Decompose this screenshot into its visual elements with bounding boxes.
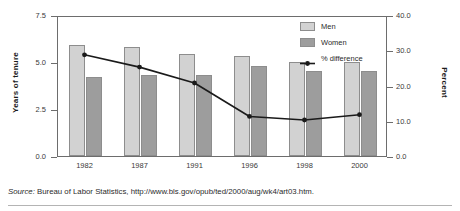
y-tick-label-right: 20.0 <box>396 83 411 91</box>
y-tick-label-right: 10.0 <box>396 118 411 126</box>
bar-women <box>361 71 377 156</box>
bar-women <box>86 77 102 156</box>
bar-men <box>124 47 140 156</box>
legend-item: Women <box>300 35 396 49</box>
y-tick-label-left: 7.5 <box>0 12 46 20</box>
legend-item-label: Men <box>321 22 336 31</box>
legend-item-label: Women <box>321 38 347 47</box>
y-tick-mark-right <box>387 122 393 123</box>
bar-women <box>141 75 157 156</box>
x-tick-label: 1998 <box>285 161 325 170</box>
x-tick-label: 1991 <box>175 161 215 170</box>
bar-women <box>196 75 212 156</box>
legend-item: % difference <box>300 51 396 65</box>
source-text: Bureau of Labor Statistics, http://www.b… <box>35 187 314 196</box>
y-tick-label-right: 40.0 <box>396 12 411 20</box>
source-label: Source: <box>8 187 35 196</box>
y-tick-mark-right <box>387 16 393 17</box>
y-tick-label-left: 0.0 <box>0 153 46 161</box>
y-axis-title-right: Percent <box>440 38 449 128</box>
bar-women <box>251 66 267 156</box>
chart-legend: MenWomen% difference <box>300 19 396 67</box>
y-tick-label-right: 30.0 <box>396 47 411 55</box>
y-tick-label-left: 5.0 <box>0 59 46 67</box>
y-axis-title-left: Years of tenure <box>11 38 20 128</box>
bar-men <box>179 54 195 156</box>
footer-divider <box>8 205 452 206</box>
x-tick-label: 1982 <box>65 161 105 170</box>
legend-item: Men <box>300 19 396 33</box>
source-note: Source: Bureau of Labor Statistics, http… <box>8 187 314 196</box>
legend-swatch-men-icon <box>300 22 315 31</box>
legend-swatch-women-icon <box>300 38 315 47</box>
chart-figure: Years of tenure Percent 0.02.55.07.5 0.0… <box>0 0 460 211</box>
y-tick-label-right: 0.0 <box>396 153 406 161</box>
x-tick-label: 1996 <box>230 161 270 170</box>
x-tick-label: 1987 <box>120 161 160 170</box>
legend-line-marker-icon <box>300 54 315 63</box>
bar-men <box>69 45 85 156</box>
bar-men <box>234 56 250 156</box>
bar-women <box>306 71 322 156</box>
x-tick-label: 2000 <box>340 161 380 170</box>
y-tick-mark-right <box>387 87 393 88</box>
bar-men <box>344 62 360 156</box>
bar-men <box>289 62 305 156</box>
legend-item-label: % difference <box>321 54 363 63</box>
y-tick-mark-right <box>387 157 393 158</box>
y-tick-label-left: 2.5 <box>0 106 46 114</box>
y-tick-mark-left <box>51 157 57 158</box>
